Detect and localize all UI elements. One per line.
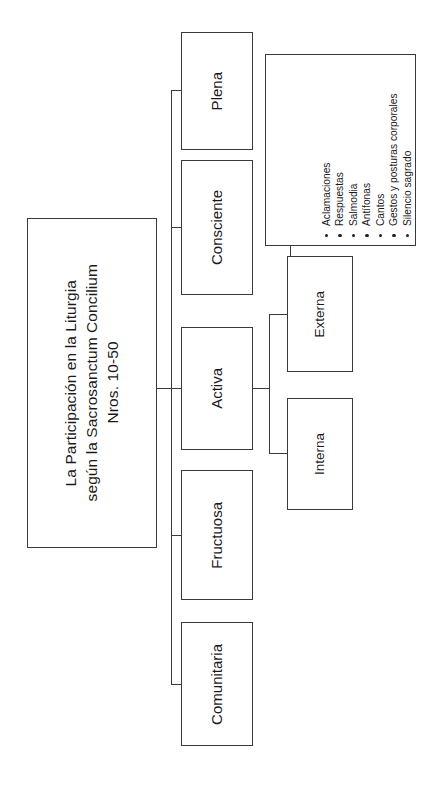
node-comunitaria-label: Comunitaria [207, 644, 227, 725]
diagram-canvas: La Participación en la Liturgiasegún la … [0, 0, 436, 786]
details-panel-rotated-content: AclamacionesRespuestasSalmodiaAntífonasC… [266, 55, 417, 247]
details-bullet-item: Respuestas [334, 94, 345, 238]
details-bullet-item: Salmodia [348, 94, 359, 238]
node-plena-label: Plena [207, 72, 227, 110]
connector-to-fructuosa [171, 535, 182, 536]
connector-level2-trunk [269, 314, 270, 454]
root-title-box: La Participación en la Liturgiasegún la … [27, 218, 157, 548]
connector-to-activa [171, 388, 182, 389]
node-consciente: Consciente [181, 160, 253, 295]
connector-to-comunitaria [171, 684, 182, 685]
node-activa-label: Activa [207, 368, 227, 409]
connector-to-externa [269, 314, 288, 315]
node-fructuosa-label: Fructuosa [207, 502, 227, 569]
details-bullet-item: Aclamaciones [321, 94, 332, 238]
root-title-line1: La Participación en la Liturgia [62, 280, 79, 486]
root-title-line3: Nros. 10-50 [103, 342, 120, 424]
node-plena: Plena [181, 32, 253, 150]
node-interna: Interna [287, 398, 353, 510]
details-panel: AclamacionesRespuestasSalmodiaAntífonasC… [265, 54, 416, 246]
details-bullet-item: Gestos y posturas corporales [388, 94, 399, 238]
connector-to-interna [269, 453, 288, 454]
node-interna-label: Interna [311, 433, 329, 475]
node-externa-label: Externa [311, 291, 329, 338]
root-title-line2: según la Sacrosanctum Concilium [83, 264, 100, 501]
node-comunitaria: Comunitaria [181, 622, 253, 746]
root-title-text: La Participación en la Liturgiasegún la … [61, 264, 123, 501]
details-bullet-item: Cantos [375, 94, 386, 238]
details-bullet-item: Silencio sagrado [402, 94, 413, 238]
node-externa: Externa [287, 256, 353, 372]
connector-to-plena [171, 90, 182, 91]
details-bullet-list: AclamacionesRespuestasSalmodiaAntífonasC… [321, 94, 413, 238]
connector-activa-stub [253, 388, 269, 389]
node-activa: Activa [181, 327, 253, 450]
node-fructuosa: Fructuosa [181, 470, 253, 600]
connector-to-consciente [171, 227, 182, 228]
node-consciente-label: Consciente [207, 190, 227, 265]
details-bullet-item: Antífonas [361, 94, 372, 238]
